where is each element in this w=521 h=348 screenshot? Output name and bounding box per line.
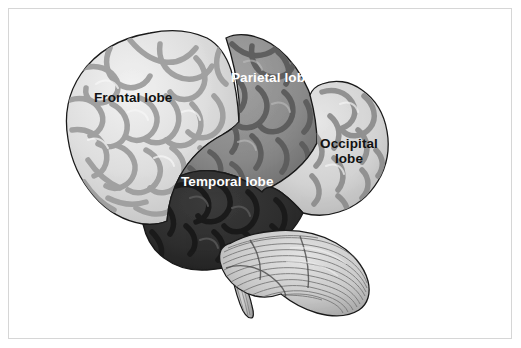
brain-regions bbox=[67, 31, 389, 318]
figure-page: Frontal lobe Parietal lobe Temporal lobe… bbox=[0, 0, 521, 348]
brain-anatomy-illustration bbox=[0, 0, 521, 348]
